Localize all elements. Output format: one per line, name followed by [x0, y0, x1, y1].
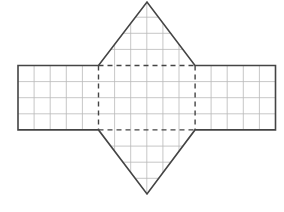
- top-triangle-grid: [99, 2, 196, 66]
- center-rectangle-grid: [99, 66, 196, 130]
- right-rectangle-grid: [195, 66, 276, 130]
- left-rectangle-grid: [18, 66, 99, 130]
- net-diagram: [0, 0, 284, 212]
- net-diagram-svg: [0, 0, 284, 212]
- bottom-triangle-grid: [99, 130, 196, 194]
